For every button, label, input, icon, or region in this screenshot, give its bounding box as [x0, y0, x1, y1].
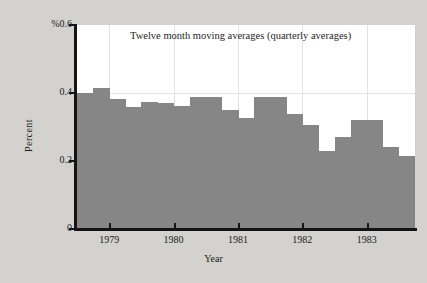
x-axis-tick [174, 223, 176, 229]
bar [367, 120, 384, 229]
bar [383, 147, 400, 229]
bar [125, 107, 142, 229]
x-axis-tick-label: 1982 [279, 234, 325, 245]
bar [351, 120, 368, 229]
bar [93, 88, 110, 229]
x-axis-tick-label: 1980 [151, 234, 197, 245]
bar [141, 102, 158, 230]
bar [254, 97, 271, 229]
x-axis-tick [109, 223, 111, 229]
bar [302, 125, 319, 229]
plot-area [77, 25, 415, 229]
x-axis-tick [238, 223, 240, 229]
x-axis-tick-label: 1981 [215, 234, 261, 245]
bar [286, 114, 303, 229]
y-axis-tick-labels: %0.60.40.20 [0, 0, 72, 283]
x-axis-title: Year [0, 253, 427, 264]
x-axis-tick-label: 1983 [344, 234, 390, 245]
y-axis-title: Percent [23, 101, 34, 171]
gridline-horizontal [77, 93, 415, 94]
bar [174, 106, 191, 229]
chart-title: Twelve month moving averages (quarterly … [130, 30, 351, 42]
bar [399, 156, 415, 229]
chart-figure: %0.60.40.20 19791980198119821983 Twelve … [0, 0, 427, 283]
bar [190, 97, 207, 229]
bar [109, 99, 126, 229]
y-axis-tick-label: 0 [6, 223, 72, 233]
y-axis-tick-label: 0.4 [6, 87, 72, 97]
bar [335, 137, 352, 229]
x-axis-tick [302, 223, 304, 229]
x-axis-tick [367, 223, 369, 229]
bar [206, 97, 223, 229]
x-axis-line [74, 228, 417, 231]
x-axis-tick-label: 1979 [86, 234, 132, 245]
y-axis-tick-label: %0.6 [6, 19, 72, 29]
bar [157, 103, 174, 229]
bar [318, 151, 335, 229]
bar [238, 118, 255, 229]
bar [222, 110, 239, 229]
y-axis-tick-label: 0.2 [6, 155, 72, 165]
bar [77, 93, 94, 229]
bar [270, 97, 287, 229]
y-axis-line [74, 24, 77, 230]
